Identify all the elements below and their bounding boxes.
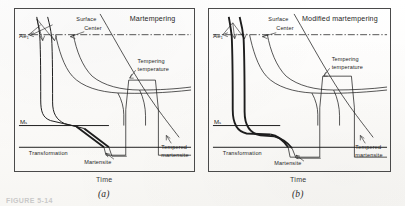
ae1-label-b: Ae₁ [213, 32, 223, 39]
martensite-line-center-a [84, 129, 109, 148]
center-label-b: Center [276, 25, 293, 31]
martensite-line-surface-a [76, 127, 104, 148]
tempering-temperature-label-line1-b: Tempering [332, 56, 359, 62]
tempered-martensite-label-line2-b: martensite [355, 152, 382, 158]
ttt-diagram-b: Modified martempering Ae₁ Mₛ Surface Cen… [209, 9, 390, 171]
arrowhead-tempmart-a [166, 135, 170, 140]
surface-cooling-curve-a [37, 17, 77, 127]
arrowhead-temper-b [324, 72, 328, 76]
quench-to-temper-path2-b [292, 148, 321, 158]
tempering-hold-trapezoid-b [320, 76, 355, 157]
tempered-martensite-curve-a [100, 14, 179, 137]
ttt-start-curve-a [56, 35, 191, 94]
x-axis-label-b: Time [290, 176, 307, 183]
ttt-start-tail-b [312, 93, 318, 126]
transformation-label-a: Transformation [29, 150, 68, 156]
panel-title-b: Modified martempering [302, 15, 378, 23]
center-label-a: Center [84, 25, 101, 31]
arrowhead-sc-a [70, 35, 75, 39]
tempered-martensite-leader-b [360, 135, 365, 143]
panel-title-a: Martempering [130, 15, 176, 23]
tempered-martensite-label-line2-a: martensite [161, 152, 188, 158]
surface-label-b: Surface [268, 16, 288, 22]
ttt-finish-tail-a [140, 90, 146, 126]
ttt-finish-curve-b [267, 35, 387, 90]
ttt-start-curve-b [250, 35, 387, 94]
ms-label-b: Mₛ [214, 118, 221, 125]
tempered-martensite-label-line1-b: Tempered [355, 144, 381, 150]
ttt-finish-tail-b [334, 90, 340, 126]
x-axis-label-a: Time [96, 176, 113, 183]
arrowhead-temper-a [130, 74, 134, 78]
martensite-label-b: Martensite [274, 160, 301, 166]
quench-to-temper-path-a [104, 110, 126, 155]
transformation-label-b: Transformation [223, 150, 262, 156]
panel-caption-b: (b) [292, 189, 304, 199]
ttt-start-tail-a [118, 93, 124, 126]
tempering-hold-trapezoid-a [126, 80, 159, 155]
arrowhead-tempmart-b [360, 135, 364, 140]
figure-number-caption: FIGURE 5-14 [6, 197, 53, 204]
tempering-temperature-label-line2-a: temperature [138, 66, 169, 72]
tempered-martensite-label-line1-a: Tempered [161, 144, 187, 150]
surface-label-a: Surface [76, 16, 96, 22]
ttt-finish-curve-a [73, 35, 191, 90]
martensite-label-a: Martensite [84, 159, 111, 165]
tempered-martensite-leader-a [166, 135, 171, 143]
ae1-label-a: Ae₁ [19, 32, 29, 39]
chart-panel-martempering: Martempering Ae₁ Mₛ Surface Center Tempe… [14, 8, 195, 172]
ms-label-a: Mₛ [20, 118, 27, 125]
figure-sheet: Martempering Ae₁ Mₛ Surface Center Tempe… [0, 0, 405, 206]
arrowhead-sc-b [262, 35, 267, 39]
panel-caption-a: (a) [98, 189, 110, 199]
tempering-temperature-label-line1-a: Tempering [138, 58, 165, 64]
tempering-temperature-label-line2-b: temperature [332, 64, 363, 70]
tempered-martensite-curve-b [294, 14, 373, 137]
chart-panel-modified-martempering: Modified martempering Ae₁ Mₛ Surface Cen… [208, 8, 391, 172]
ttt-diagram-a: Martempering Ae₁ Mₛ Surface Center Tempe… [15, 9, 194, 171]
